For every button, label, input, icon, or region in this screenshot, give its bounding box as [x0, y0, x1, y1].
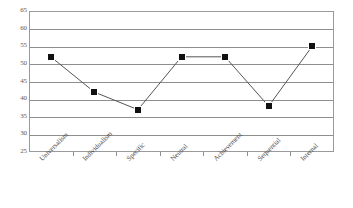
y-axis-tick-label: 35 — [3, 113, 27, 120]
gridline — [30, 47, 333, 48]
y-axis-tick-label: 40 — [3, 95, 27, 102]
x-axis-tick-mark — [247, 152, 248, 156]
gridline — [30, 135, 333, 136]
line-chart: 253035404550556065 UniversalismIndividua… — [0, 0, 353, 208]
y-axis-tick-label: 30 — [3, 130, 27, 137]
y-axis-tick-label: 60 — [3, 25, 27, 32]
x-axis-tick-mark — [116, 152, 117, 156]
plot-area — [29, 11, 334, 152]
y-axis-tick-label: 25 — [3, 148, 27, 155]
gridline — [30, 64, 333, 65]
y-axis-tick-label: 50 — [3, 60, 27, 67]
y-axis-tick-labels: 253035404550556065 — [0, 11, 27, 152]
gridline — [30, 100, 333, 101]
x-axis-tick-mark — [290, 152, 291, 156]
gridline — [30, 117, 333, 118]
y-axis-tick-label: 45 — [3, 78, 27, 85]
x-axis-category-labels: UniversalismIndividualismSpecificNeutral… — [29, 157, 334, 208]
gridline — [30, 82, 333, 83]
y-axis-tick-label: 65 — [3, 7, 27, 14]
gridline — [30, 29, 333, 30]
y-axis-tick-label: 55 — [3, 42, 27, 49]
x-axis-tick-mark — [160, 152, 161, 156]
x-axis-tick-mark — [73, 152, 74, 156]
x-axis-tick-mark — [203, 152, 204, 156]
